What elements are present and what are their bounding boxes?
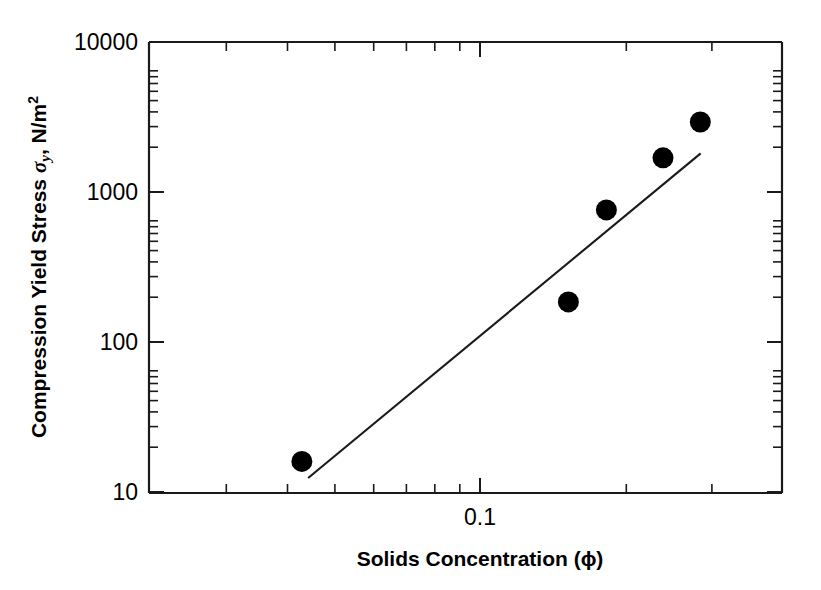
data-point-4 xyxy=(653,147,674,168)
y-tick-label-10000: 10000 xyxy=(74,29,138,55)
data-point-2 xyxy=(558,291,579,312)
svg-text:Compression Yield Stress σy, N: Compression Yield Stress σy, N/m2 xyxy=(25,96,53,438)
y-tick-label-100: 100 xyxy=(100,329,138,355)
y-tick-label-10: 10 xyxy=(112,479,138,505)
y-axis-major-ticks xyxy=(149,42,782,492)
y-tick-label-1000: 1000 xyxy=(87,179,138,205)
y-axis-title: Compression Yield Stress σy, N/m2 xyxy=(25,96,53,438)
y-axis-title-units: , N/m xyxy=(27,104,50,155)
chart-figure: 10000 1000 100 10 0.1 Compression Yield … xyxy=(0,0,821,590)
scatter-plot-svg: 10000 1000 100 10 0.1 Compression Yield … xyxy=(0,0,821,590)
y-axis-title-subscript: y xyxy=(37,155,53,164)
y-axis-minor-ticks xyxy=(149,71,782,447)
data-point-group xyxy=(291,111,710,471)
data-point-3 xyxy=(596,199,617,220)
x-axis-minor-ticks xyxy=(226,42,712,493)
x-tick-label-0.1: 0.1 xyxy=(464,504,496,530)
y-axis-title-main: Compression Yield Stress xyxy=(27,179,50,438)
y-axis-title-symbol: σ xyxy=(27,161,51,173)
fit-line-segment xyxy=(308,153,701,478)
data-point-1 xyxy=(291,451,312,472)
y-axis-title-exponent: 2 xyxy=(25,96,41,104)
data-point-5 xyxy=(690,111,711,132)
fit-line xyxy=(308,153,701,478)
x-axis-title: Solids Concentration (ϕ) xyxy=(357,547,604,570)
